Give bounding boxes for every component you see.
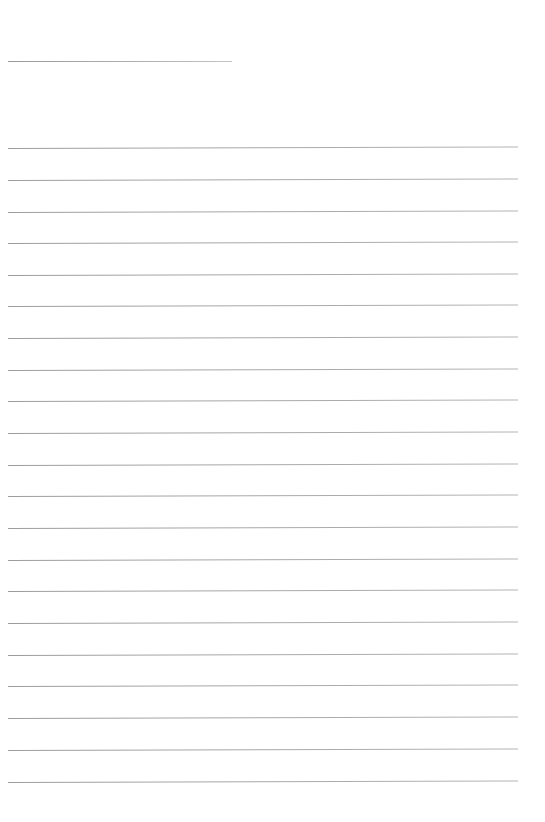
ruled-line xyxy=(8,653,518,656)
ruled-line xyxy=(8,304,518,307)
ruled-line xyxy=(8,716,518,719)
ruled-line xyxy=(8,589,518,592)
ruled-line xyxy=(8,336,518,339)
ruled-line xyxy=(8,526,518,529)
ruled-line xyxy=(8,780,518,783)
ruled-line xyxy=(8,558,518,561)
ruled-line xyxy=(8,494,518,497)
ruled-line xyxy=(8,273,518,276)
ruled-line xyxy=(8,431,518,434)
ruled-line xyxy=(8,146,518,149)
ruled-line xyxy=(8,368,518,371)
ruled-line xyxy=(8,463,518,466)
ruled-line xyxy=(8,748,518,751)
ruled-line xyxy=(8,178,518,181)
ruled-line xyxy=(8,210,518,213)
ruled-line xyxy=(8,684,518,687)
ruled-line xyxy=(8,399,518,402)
header-rule xyxy=(8,61,232,62)
ruled-line xyxy=(8,621,518,624)
ruled-line xyxy=(8,241,518,244)
lined-paper-page xyxy=(0,0,545,822)
